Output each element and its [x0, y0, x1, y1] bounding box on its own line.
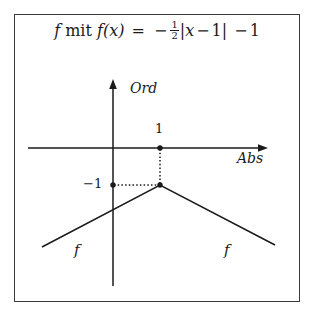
x-axis: [28, 144, 268, 152]
curve-label-left: f: [74, 241, 80, 259]
function-curve-f: [42, 185, 275, 247]
point-y-minus-one: [110, 182, 115, 187]
tick-label-x-one: 1: [155, 121, 163, 136]
figure-screenshot: f mit f(x) = −12|x−1| −1 Ord Abs 1 −1 f …: [0, 0, 313, 317]
point-vertex: [157, 182, 162, 187]
y-axis-label: Ord: [130, 80, 157, 96]
tick-label-y-minus-one: −1: [83, 176, 102, 191]
point-x-one: [157, 145, 162, 150]
curve-label-right: f: [224, 241, 230, 259]
y-axis-arrowhead: [109, 79, 117, 89]
x-axis-label: Abs: [237, 150, 263, 166]
coordinate-plot: [0, 0, 313, 317]
